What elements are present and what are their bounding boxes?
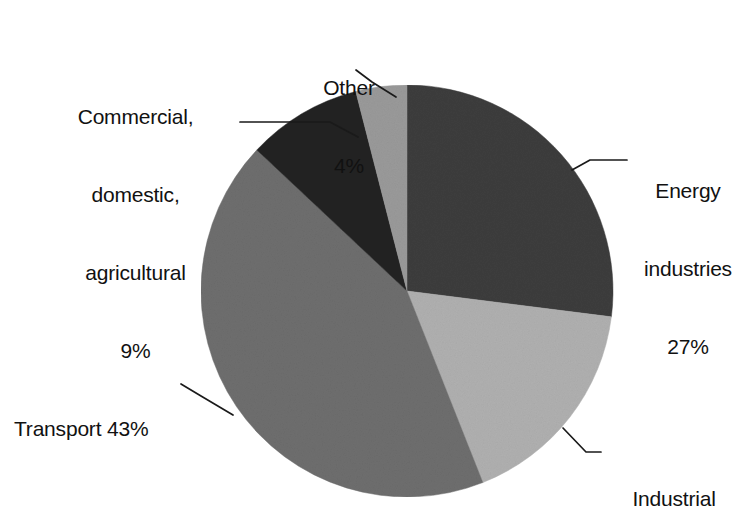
pie-label-industrial-line1: Industrial [604, 486, 744, 512]
pie-label-commercial-line2: domestic, [28, 182, 243, 208]
pie-label-commercial-line1: Commercial, [28, 104, 243, 130]
pie-label-transport-line1: Transport 43% [14, 416, 184, 442]
pie-label-energy-industries: Energy industries 27% [632, 126, 744, 412]
leader-line-industrial [563, 428, 601, 452]
pie-label-energy-line2: industries [632, 256, 744, 282]
pie-label-other-line1: Other [284, 75, 414, 101]
pie-label-energy-line1: Energy [632, 178, 744, 204]
pie-slice-energy-industries[interactable] [407, 85, 613, 317]
pie-label-industrial-combustion: Industrial combustion 17% [604, 434, 744, 531]
pie-label-commercial-domestic-agricultural: Commercial, domestic, agricultural 9% [28, 52, 243, 416]
pie-label-energy-line3: 27% [632, 334, 744, 360]
pie-label-commercial-line3: agricultural [28, 260, 243, 286]
leader-line-energy [572, 160, 627, 170]
pie-chart: Other 4% Commercial, domestic, agricultu… [0, 0, 748, 531]
pie-label-commercial-line4: 9% [28, 338, 243, 364]
pie-label-transport: Transport 43% [14, 364, 184, 494]
pie-label-other: Other 4% [284, 23, 414, 231]
pie-label-other-line2: 4% [284, 153, 414, 179]
